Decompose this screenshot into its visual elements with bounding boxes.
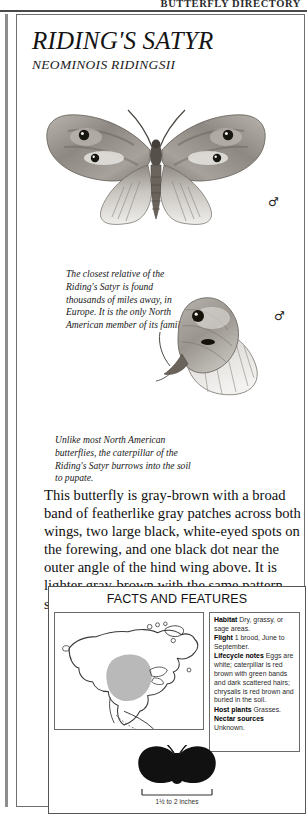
page-gutter-edge xyxy=(5,14,8,807)
fact-habitat: Habitat Dry, grassy, or sage areas. xyxy=(214,616,296,634)
fact-nectar-sources-value: Unknown. xyxy=(214,724,245,731)
fact-lifecycle: Lifecycle notes Eggs are white; caterpil… xyxy=(214,652,296,705)
fact-host-plants-value: Grasses. xyxy=(253,706,281,713)
facts-list: Habitat Dry, grassy, or sage areas. Flig… xyxy=(209,612,300,752)
range-map xyxy=(54,612,204,730)
fact-host-plants-label: Host plants xyxy=(214,706,252,713)
butterfly-silhouette-icon xyxy=(122,745,232,797)
running-head: BUTTERFLY DIRECTORY xyxy=(0,0,307,10)
fact-habitat-label: Habitat xyxy=(214,616,237,623)
fact-lifecycle-value: Eggs are white; caterpillar is red brown… xyxy=(214,652,294,703)
fact-lifecycle-label: Lifecycle notes xyxy=(214,652,264,659)
butterfly-illustration-dorsal xyxy=(34,95,278,225)
fact-nectar-sources: Nectar sources Unknown. xyxy=(214,715,296,733)
size-indicator: 1½ to 2 inches xyxy=(49,745,305,805)
page-title: RIDING'S SATYR NEOMINOIS RIDINGSII xyxy=(22,20,299,73)
butterfly-illustration-ventral xyxy=(152,270,284,408)
page-content: RIDING'S SATYR NEOMINOIS RIDINGSII xyxy=(22,20,299,801)
fact-flight: Flight 1 brood, June to September. xyxy=(214,634,296,652)
header-rule xyxy=(0,10,307,12)
facts-and-features-panel: FACTS AND FEATURES xyxy=(48,586,306,814)
size-caption: 1½ to 2 inches xyxy=(49,798,305,805)
fact-host-plants: Host plants Grasses. xyxy=(214,706,296,715)
facts-panel-title: FACTS AND FEATURES xyxy=(49,587,305,612)
scientific-name: NEOMINOIS RIDINGSII xyxy=(32,57,299,73)
male-symbol-ventral: ♂ xyxy=(274,310,285,322)
caption-caterpillar: Unlike most North American butterflies, … xyxy=(55,434,200,485)
fact-nectar-sources-label: Nectar sources xyxy=(214,715,264,722)
fact-flight-label: Flight xyxy=(214,634,233,641)
common-name: RIDING'S SATYR xyxy=(32,28,299,54)
male-symbol-dorsal: ♂ xyxy=(268,196,279,208)
